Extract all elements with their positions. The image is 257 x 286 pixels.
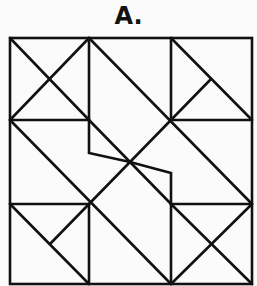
bl-half-diagonal <box>50 204 89 244</box>
geometric-figure <box>0 0 257 286</box>
tr-half-diagonal <box>171 79 211 120</box>
